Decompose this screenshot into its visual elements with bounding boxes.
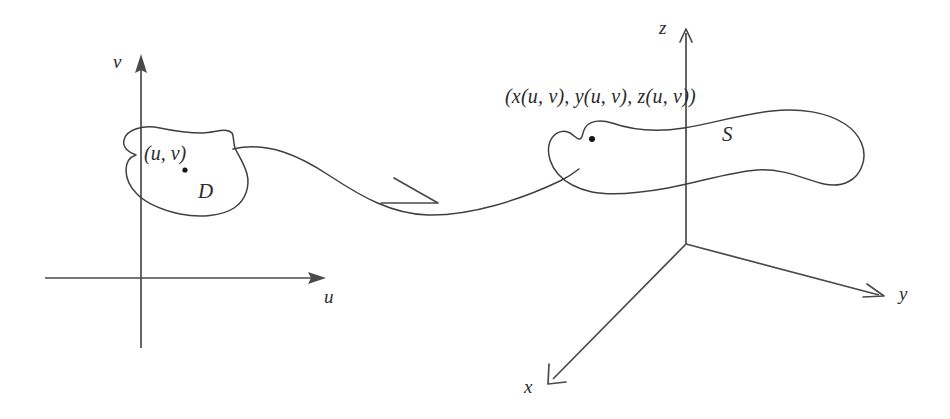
- region-label-D: D: [198, 181, 213, 202]
- xyz-point-dot: [589, 136, 595, 142]
- xyz-point-label: (x(u, v), y(u, v), z(u, v)): [505, 86, 696, 106]
- axis-label-v: v: [113, 52, 121, 71]
- xyz-axes-group: [548, 29, 884, 384]
- surface-region-S: [548, 110, 864, 194]
- parametric-mapping-figure: v u (u, v) D z y x (x(u, v), y(u, v), z(…: [0, 0, 950, 419]
- axis-label-u: u: [324, 287, 334, 306]
- mapping-arrow-group: [233, 147, 579, 215]
- mapping-arrow-head: [381, 178, 438, 203]
- uv-point-dot: [182, 167, 187, 172]
- figure-canvas: [0, 0, 950, 419]
- y-axis-arrowhead: [863, 284, 884, 297]
- x-axis-line: [553, 244, 686, 379]
- region-S-outline: [548, 110, 864, 194]
- y-axis-line: [686, 244, 879, 295]
- region-label-S: S: [722, 124, 733, 145]
- mapping-arrow-curve: [233, 147, 579, 215]
- uv-axes-group: [45, 54, 326, 348]
- axis-label-x: x: [524, 377, 532, 396]
- axis-label-z: z: [659, 18, 666, 37]
- axis-label-y: y: [899, 284, 907, 303]
- domain-region-D: [124, 127, 248, 216]
- uv-point-label: (u, v): [144, 143, 186, 163]
